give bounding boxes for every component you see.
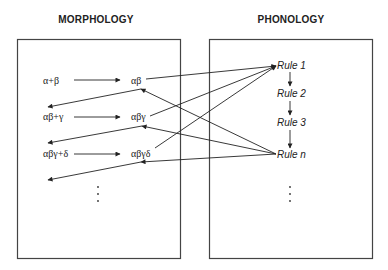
- morphology-title: MORPHOLOGY: [58, 14, 133, 25]
- rule-3: Rule 3: [277, 117, 306, 128]
- rule-n: Rule n: [277, 149, 306, 160]
- morph-input-2: αβ+γ: [43, 111, 64, 122]
- morphology-box: [18, 40, 181, 259]
- arrow-output3-to-next-input: [48, 162, 141, 180]
- morph-input-1: α+β: [43, 75, 59, 86]
- morph-output-2: αβγ: [131, 111, 146, 122]
- morphology-phonology-diagram: MORPHOLOGY PHONOLOGY α+β αβ+γ αβγ+δ αβ α…: [0, 0, 388, 270]
- arrow-rulen-to-output3: [141, 154, 276, 162]
- morph-ellipsis-icon: [97, 186, 99, 202]
- morph-output-1: αβ: [131, 75, 141, 86]
- arrow-output1-to-rule1: [146, 66, 276, 79]
- phonology-title: PHONOLOGY: [258, 14, 325, 25]
- arrow-output2-to-next-input: [48, 126, 142, 143]
- phon-ellipsis-icon: [289, 186, 291, 202]
- arrow-output1-to-next-input: [48, 89, 141, 107]
- rule-1: Rule 1: [277, 60, 306, 71]
- morph-output-3: αβγδ: [131, 148, 151, 159]
- morph-input-3: αβγ+δ: [43, 148, 68, 159]
- rule-2: Rule 2: [277, 88, 306, 99]
